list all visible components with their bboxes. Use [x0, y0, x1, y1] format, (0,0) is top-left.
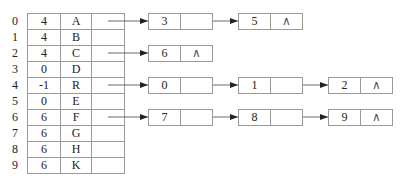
list-node: 0 [148, 77, 213, 94]
node-value: 2 [329, 78, 361, 93]
node-value: 8 [239, 110, 271, 125]
node-next-pointer [181, 78, 212, 93]
node-next-pointer [181, 110, 212, 125]
list-node: 1 [238, 77, 303, 94]
list-node: 9 ∧ [328, 109, 393, 126]
node-value: 9 [329, 110, 361, 125]
list-node: 3 [148, 13, 213, 30]
null-pointer-icon: ∧ [361, 110, 392, 125]
node-value: 3 [149, 14, 181, 29]
node-value: 0 [149, 78, 181, 93]
node-next-pointer [271, 110, 302, 125]
list-node: 6 ∧ [148, 45, 213, 62]
node-next-pointer [271, 78, 302, 93]
list-node: 2 ∧ [328, 77, 393, 94]
list-node: 8 [238, 109, 303, 126]
list-node: 5 ∧ [238, 13, 303, 30]
null-pointer-icon: ∧ [361, 78, 392, 93]
null-pointer-icon: ∧ [181, 46, 212, 61]
node-value: 1 [239, 78, 271, 93]
node-value: 5 [239, 14, 271, 29]
node-value: 6 [149, 46, 181, 61]
null-pointer-icon: ∧ [271, 14, 302, 29]
list-node: 7 [148, 109, 213, 126]
node-next-pointer [181, 14, 212, 29]
node-value: 7 [149, 110, 181, 125]
